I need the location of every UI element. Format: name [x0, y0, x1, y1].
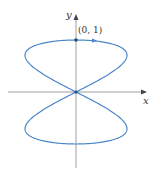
origin-point — [74, 90, 77, 93]
x-axis-label: x — [143, 95, 149, 106]
x-axis-arrow-icon — [141, 90, 147, 95]
y-axis-arrow-icon — [74, 14, 79, 20]
point-label: (0, 1) — [78, 25, 102, 35]
point-0-1 — [74, 38, 78, 42]
y-axis-label: y — [66, 9, 72, 20]
direction-arrow-icon — [92, 38, 97, 42]
